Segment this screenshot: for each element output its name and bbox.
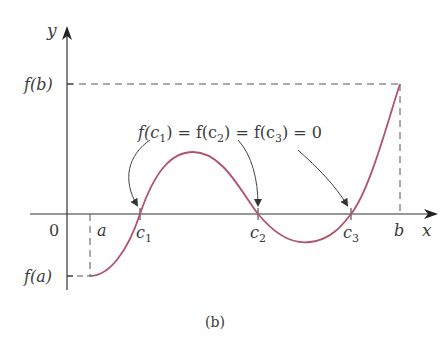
fa-label: f(a): [23, 267, 52, 286]
a-label: a: [97, 221, 107, 240]
figure-caption: (b): [205, 314, 225, 330]
x-axis-label: x: [422, 220, 432, 240]
function-curve: [90, 84, 400, 276]
c1-label: c1: [136, 223, 152, 245]
origin-label: 0: [49, 221, 59, 240]
c3-label: c3: [343, 223, 359, 245]
arrow-to-c2: [238, 140, 258, 205]
y-axis-label: y: [46, 20, 57, 40]
diagram-canvas: y x 0 f(b) f(a) a c1 c2 c3 b f(c1) = f(c…: [0, 0, 443, 337]
c2-label: c2: [250, 223, 266, 245]
b-label: b: [394, 221, 404, 240]
equation-label: f(c1) = f(c2) = f(c3) = 0: [137, 123, 322, 145]
fb-label: f(b): [23, 75, 53, 94]
arrow-to-c3: [298, 150, 347, 205]
